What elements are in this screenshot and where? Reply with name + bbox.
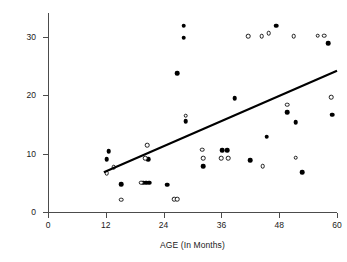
regression-line-layer (0, 0, 347, 262)
regression-line (104, 71, 337, 173)
scatter-plot-figure: Distance (In Meters) AGE (In Months) 012… (0, 0, 347, 262)
